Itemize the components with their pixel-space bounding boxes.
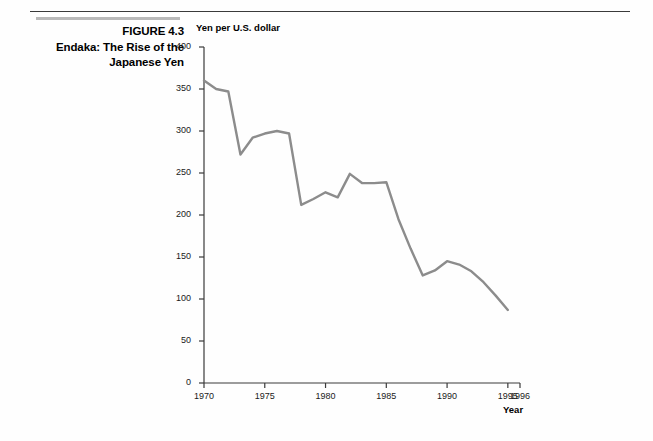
y-tick-label: 0: [157, 377, 191, 387]
x-tick-label: 1975: [245, 391, 285, 401]
line-chart: Yen per U.S. dollar Year 050100150200250…: [0, 0, 653, 441]
y-tick-label: 200: [157, 209, 191, 219]
axes-group: [199, 47, 520, 388]
y-tick-label: 400: [157, 41, 191, 51]
data-series-line: [204, 81, 508, 310]
y-tick-label: 50: [157, 335, 191, 345]
x-tick-label: 1970: [184, 391, 224, 401]
x-tick-label: 1996: [500, 391, 540, 401]
y-axis-ticks: [199, 47, 204, 383]
y-tick-label: 100: [157, 293, 191, 303]
figure-page: FIGURE 4.3 Endaka: The Rise of the Japan…: [0, 0, 653, 441]
y-tick-label: 250: [157, 167, 191, 177]
x-tick-label: 1985: [366, 391, 406, 401]
x-tick-label: 1980: [306, 391, 346, 401]
plot-canvas: [0, 0, 653, 441]
y-tick-label: 350: [157, 83, 191, 93]
x-tick-label: 1990: [427, 391, 467, 401]
x-axis-ticks: [204, 383, 520, 388]
y-tick-label: 300: [157, 125, 191, 135]
y-tick-label: 150: [157, 251, 191, 261]
